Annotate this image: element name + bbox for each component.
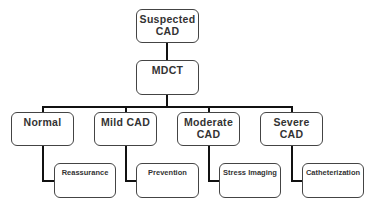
connector-normal-leaf-h bbox=[42, 180, 54, 182]
connector-moderate-leaf-h bbox=[208, 180, 219, 182]
node-label: Severe CAD bbox=[261, 116, 322, 140]
node-label: Mild CAD bbox=[95, 116, 156, 128]
connector-mild-leaf-v bbox=[125, 146, 127, 181]
node-label: CAD bbox=[137, 25, 198, 37]
node-label: CAD bbox=[178, 128, 239, 140]
connector-severe-leaf-v bbox=[291, 146, 293, 181]
node-label: Stress Imaging bbox=[220, 168, 280, 177]
node-label: Catheterization bbox=[303, 168, 363, 177]
node-stress-imaging: Stress Imaging bbox=[219, 163, 281, 198]
node-mild-cad: Mild CAD bbox=[94, 112, 157, 146]
connector-horizontal bbox=[42, 106, 293, 108]
connector-moderate-leaf-v bbox=[208, 146, 210, 181]
node-label: Prevention bbox=[137, 168, 198, 177]
node-label: Moderate bbox=[178, 116, 239, 128]
connector-root-mdct bbox=[166, 43, 168, 60]
node-label: Normal bbox=[12, 116, 73, 128]
connector-normal-leaf-v bbox=[42, 146, 44, 181]
node-suspected-cad: Suspected CAD bbox=[136, 9, 199, 43]
connector-mild-leaf-h bbox=[125, 180, 136, 182]
node-moderate-cad: Moderate CAD bbox=[177, 112, 240, 146]
node-label: Reassurance bbox=[55, 168, 115, 177]
node-label: MDCT bbox=[137, 64, 198, 76]
node-prevention: Prevention bbox=[136, 163, 199, 198]
node-catheterization: Catheterization bbox=[302, 163, 364, 198]
node-reassurance: Reassurance bbox=[54, 163, 116, 198]
node-severe-cad: Severe CAD bbox=[260, 112, 323, 146]
connector-severe-leaf-h bbox=[291, 180, 302, 182]
node-label: Suspected bbox=[137, 13, 198, 25]
node-normal: Normal bbox=[11, 112, 74, 146]
node-mdct: MDCT bbox=[136, 60, 199, 95]
